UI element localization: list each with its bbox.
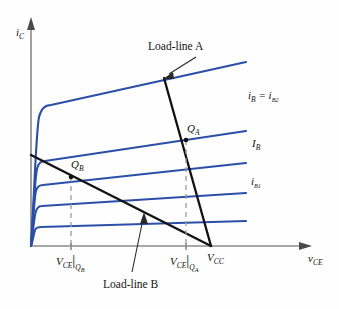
- curve-label-i-b: IB: [251, 137, 261, 152]
- figure-container: iC vCE iB = iB2 IB iB1 QB QA Load-line A…: [0, 0, 339, 309]
- load-line-b: [31, 155, 211, 246]
- characteristic-curve-middle-upper: [31, 131, 246, 246]
- x-mark-vce-qa: VCE|QA: [170, 252, 199, 273]
- x-axis: [31, 242, 312, 250]
- curve-label-i-b1: iB1: [251, 175, 261, 189]
- annotation-load-line-b: Load-line B: [103, 278, 159, 290]
- x-mark-vcc: VCC: [207, 251, 225, 266]
- load-line-a: [164, 78, 211, 246]
- characteristic-curve-i-b2: [31, 62, 246, 246]
- load-line-b-pointer: [132, 212, 148, 272]
- q-point-a-label: QA: [187, 122, 200, 137]
- characteristic-curves-diagram: iC vCE iB = iB2 IB iB1 QB QA Load-line A…: [0, 0, 339, 309]
- curve-label-i-b2: iB = iB2: [248, 89, 279, 104]
- x-mark-vce-qb: VCE|QB: [56, 252, 85, 273]
- x-axis-arrowhead: [299, 242, 312, 250]
- q-point-a-marker: [184, 138, 189, 143]
- annotation-load-line-a: Load-line A: [148, 40, 204, 52]
- q-point-b-marker: [69, 175, 74, 180]
- y-axis-label: iC: [16, 26, 25, 41]
- characteristic-curve-group: [31, 62, 246, 246]
- x-axis-label: vCE: [308, 252, 323, 267]
- q-point-b-label: QB: [71, 158, 84, 173]
- y-axis-arrowhead: [27, 17, 35, 30]
